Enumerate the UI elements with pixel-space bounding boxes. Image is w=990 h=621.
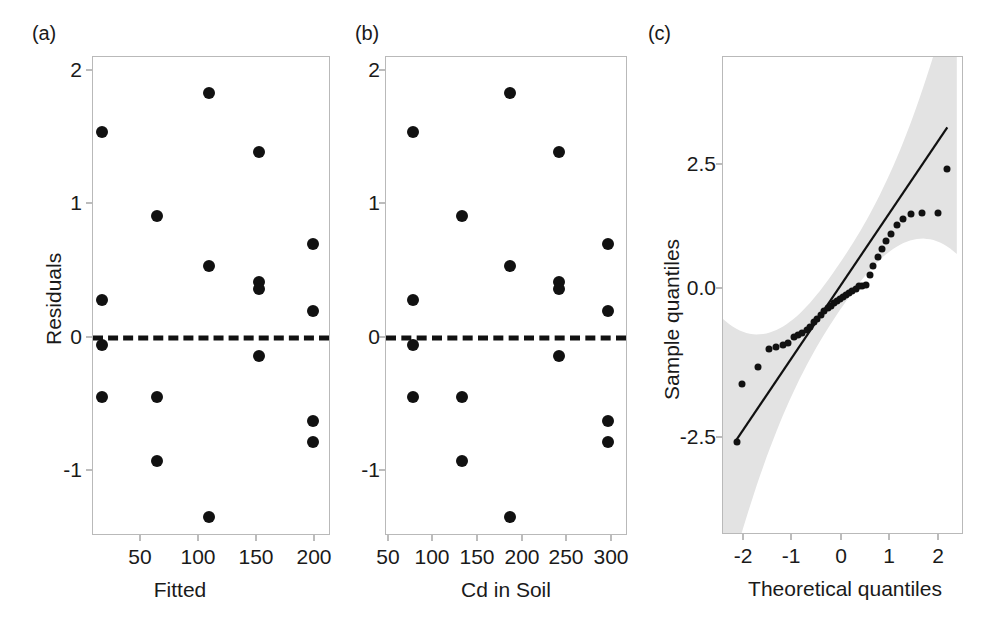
data-point <box>553 146 565 158</box>
data-point <box>407 339 419 351</box>
data-point <box>862 281 869 288</box>
data-point <box>307 436 319 448</box>
data-point <box>766 346 773 353</box>
panel-b-xtick-label-250: 250 <box>548 545 583 569</box>
data-point <box>253 350 265 362</box>
panel-c-xtick-mark-2 <box>938 534 939 540</box>
panel-c-xtick-label-1: 1 <box>883 544 895 568</box>
panel-c-y-axis-title: Sample quantiles <box>660 239 684 400</box>
data-point <box>739 381 746 388</box>
panel-a-xtick-mark-150 <box>256 535 257 541</box>
panel-b-ytick-label-0: 0 <box>350 325 380 349</box>
data-point <box>504 511 516 523</box>
panel-a-ytick-label-1: 1 <box>52 191 82 215</box>
data-point <box>870 263 877 270</box>
data-point <box>874 253 881 260</box>
panel-c-letter: (c) <box>648 22 671 45</box>
data-point <box>456 391 468 403</box>
data-point <box>894 221 901 228</box>
data-point <box>866 272 873 279</box>
data-point <box>553 350 565 362</box>
panel-b-letter: (b) <box>355 22 379 45</box>
data-point <box>253 283 265 295</box>
panel-b-xtick-mark-100 <box>432 535 433 541</box>
data-point <box>456 210 468 222</box>
data-point <box>151 391 163 403</box>
data-point <box>151 210 163 222</box>
data-point <box>602 238 614 250</box>
panel-c-xtick-mark-neg2 <box>743 534 744 540</box>
panel-c-ytick-label-0p0: 0.0 <box>668 276 716 300</box>
data-point <box>203 511 215 523</box>
data-point <box>734 439 741 446</box>
data-point <box>456 455 468 467</box>
data-point <box>203 260 215 272</box>
data-point <box>883 238 890 245</box>
panel-a-zero-reference-line <box>93 336 329 341</box>
panel-a-xtick-mark-200 <box>314 535 315 541</box>
panel-c: (c) Sample quantiles 2.5 0.0 -2.5 -2 -1 … <box>640 0 990 621</box>
panel-c-xtick-mark-1 <box>889 534 890 540</box>
data-point <box>307 415 319 427</box>
panel-b-xtick-label-150: 150 <box>459 545 494 569</box>
panel-b-zero-reference-line <box>386 336 626 341</box>
panel-c-x-axis-title: Theoretical quantiles <box>748 577 942 601</box>
panel-b-xtick-mark-250 <box>566 535 567 541</box>
data-point <box>900 215 907 222</box>
panel-b-xtick-mark-300 <box>611 535 612 541</box>
panel-a-plot-area <box>92 56 330 535</box>
data-point <box>602 415 614 427</box>
panel-a: (a) Residuals 2 1 0 -1 50 100 150 200 Fi… <box>0 0 340 621</box>
panel-a-ytick-label-0: 0 <box>52 325 82 349</box>
panel-c-plot-area <box>722 56 963 534</box>
panel-a-xtick-mark-100 <box>198 535 199 541</box>
panel-b-x-axis-title: Cd in Soil <box>461 578 551 602</box>
panel-c-xtick-label-neg1: -1 <box>782 544 801 568</box>
data-point <box>602 305 614 317</box>
data-point <box>307 305 319 317</box>
data-point <box>602 436 614 448</box>
panel-a-xtick-label-200: 200 <box>296 545 331 569</box>
panel-b-xtick-mark-200 <box>522 535 523 541</box>
data-point <box>96 391 108 403</box>
panel-b-xtick-label-300: 300 <box>593 545 628 569</box>
panel-b-xtick-label-200: 200 <box>504 545 539 569</box>
data-point <box>96 339 108 351</box>
panel-a-xtick-mark-50 <box>140 535 141 541</box>
panel-b-xtick-label-100: 100 <box>414 545 449 569</box>
data-point <box>96 126 108 138</box>
data-point <box>754 364 761 371</box>
qq-reference-line <box>735 127 947 442</box>
panel-b-ytick-label-neg1: -1 <box>340 458 380 482</box>
data-point <box>253 146 265 158</box>
panel-c-ytick-label-2p5: 2.5 <box>668 152 716 176</box>
panel-a-xtick-label-50: 50 <box>128 545 151 569</box>
data-point <box>504 87 516 99</box>
data-point <box>96 294 108 306</box>
data-point <box>934 209 941 216</box>
panel-c-xtick-label-neg2: -2 <box>734 544 753 568</box>
panel-b-xtick-mark-150 <box>477 535 478 541</box>
panel-c-xtick-mark-neg1 <box>791 534 792 540</box>
data-point <box>504 260 516 272</box>
data-point <box>878 246 885 253</box>
data-point <box>553 283 565 295</box>
panel-b-ytick-label-2: 2 <box>350 58 380 82</box>
panel-a-xtick-label-150: 150 <box>238 545 273 569</box>
panel-c-xtick-label-0: 0 <box>835 544 847 568</box>
panel-b-ytick-label-1: 1 <box>350 191 380 215</box>
data-point <box>907 211 914 218</box>
data-point <box>407 126 419 138</box>
figure-panel-group: (a) Residuals 2 1 0 -1 50 100 150 200 Fi… <box>0 0 990 621</box>
data-point <box>888 231 895 238</box>
panel-b-xtick-mark-50 <box>388 535 389 541</box>
data-point <box>151 455 163 467</box>
panel-a-xtick-label-100: 100 <box>180 545 215 569</box>
panel-a-x-axis-title: Fitted <box>154 578 207 602</box>
panel-a-ytick-label-2: 2 <box>52 58 82 82</box>
data-point <box>407 294 419 306</box>
panel-b-xtick-label-50: 50 <box>376 545 399 569</box>
panel-b: (b) 2 1 0 -1 50 100 150 200 250 300 Cd i… <box>330 0 660 621</box>
data-point <box>785 339 792 346</box>
data-point <box>407 391 419 403</box>
